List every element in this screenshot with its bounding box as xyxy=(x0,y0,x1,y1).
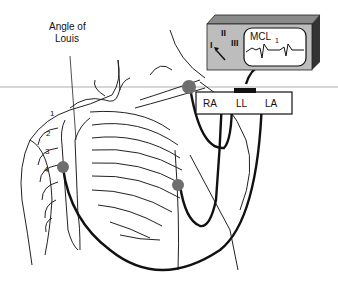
lead-label-ii: II xyxy=(221,28,226,38)
ecg-lead-placement-diagram: Angle of Louis I II III MCL 1 RA LL LA 1… xyxy=(0,0,338,283)
la-electrode xyxy=(172,179,184,191)
lead-label-la: LA xyxy=(265,98,278,109)
screen-label: MCL xyxy=(250,31,272,42)
rib-number-3: 3 xyxy=(45,147,50,156)
screen-label-subscript: 1 xyxy=(275,37,279,44)
monitor-top xyxy=(207,15,320,24)
rib-number-1: 1 xyxy=(50,109,55,118)
la-wire xyxy=(180,100,222,226)
lead-label-ll: LL xyxy=(236,98,248,109)
chest-electrode xyxy=(57,161,69,173)
lead-box-connector xyxy=(234,88,256,93)
rib-number-2: 2 xyxy=(46,129,51,138)
angle-of-louis-label-1: Angle of xyxy=(49,21,86,32)
lead-label-iii: III xyxy=(231,38,239,48)
angle-of-louis-pointer xyxy=(70,56,76,140)
lead-label-i: I xyxy=(210,40,213,50)
lead-label-ra: RA xyxy=(203,98,217,109)
angle-of-louis-label-2: Louis xyxy=(55,33,79,44)
monitor-side xyxy=(312,15,320,70)
rib-number-4: 4 xyxy=(44,165,49,174)
ra-electrode xyxy=(182,80,196,94)
